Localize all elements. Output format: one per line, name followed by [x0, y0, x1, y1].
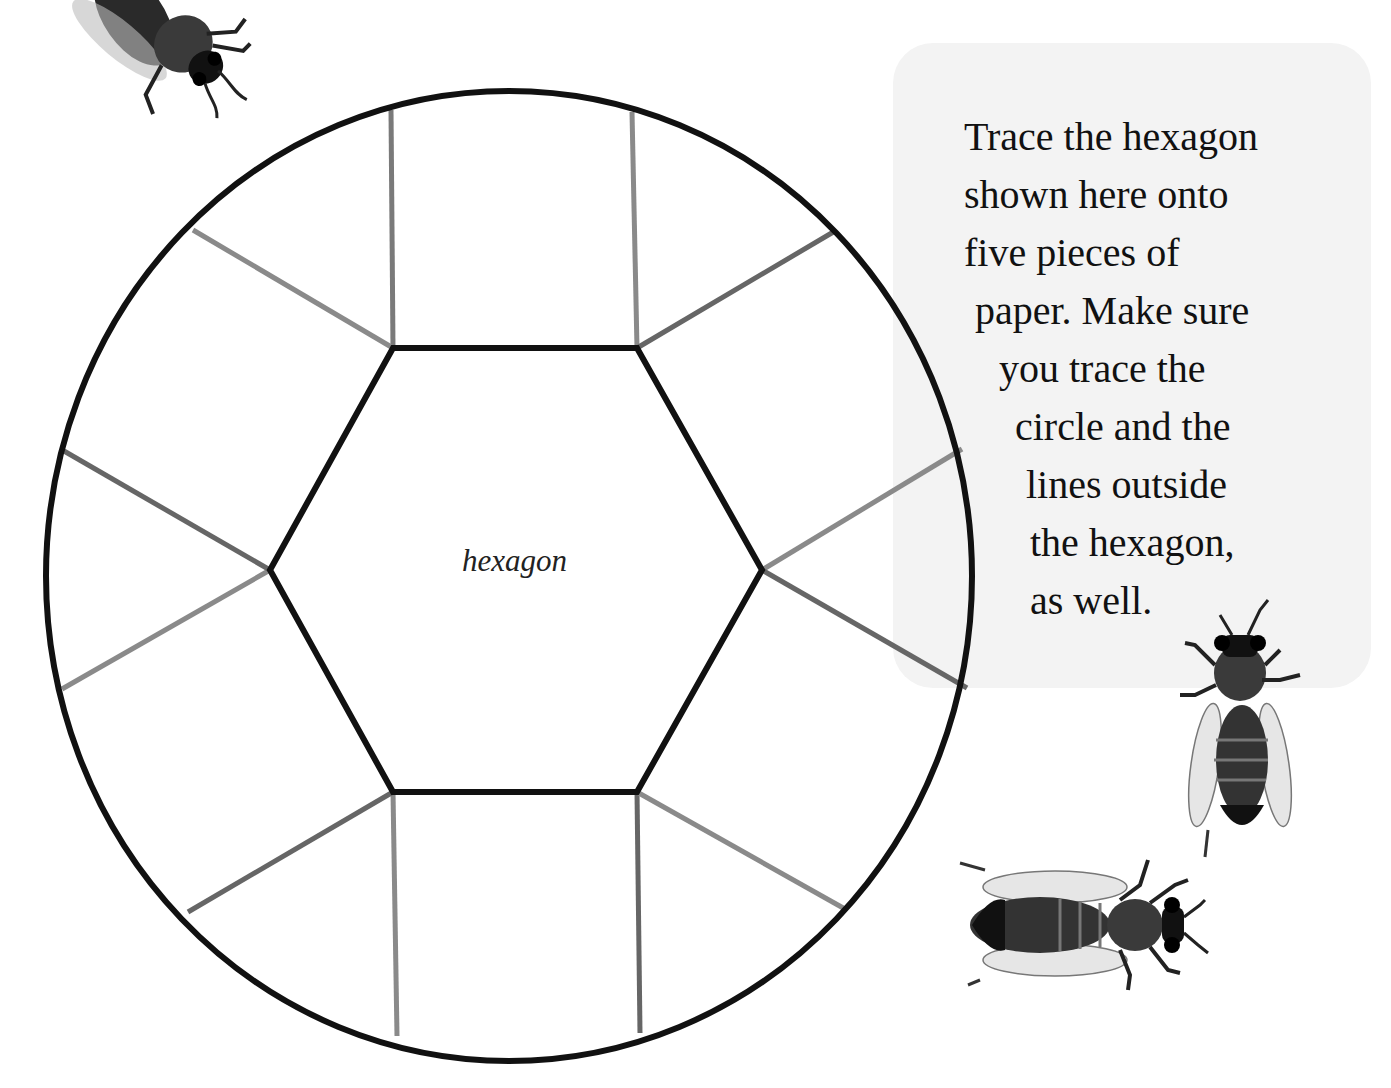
spoke	[637, 792, 845, 909]
instruction-line: lines outside	[1026, 465, 1227, 505]
spoke	[64, 451, 270, 570]
spoke	[632, 112, 637, 348]
bee-icon	[960, 860, 1208, 990]
spoke	[193, 230, 393, 348]
instruction-line: Trace the hexagon	[964, 117, 1258, 157]
instruction-line: you trace the	[999, 349, 1206, 389]
spoke	[188, 792, 393, 912]
instruction-line: paper. Make sure	[975, 291, 1249, 331]
spoke	[391, 110, 393, 348]
bee-icon	[1180, 600, 1300, 857]
spoke	[62, 570, 270, 689]
instruction-line: circle and the	[1015, 407, 1230, 447]
bee-icon	[55, 0, 283, 159]
spoke	[762, 449, 962, 570]
spoke	[393, 792, 397, 1036]
hexagon-label: hexagon	[462, 545, 567, 576]
instruction-line: the hexagon,	[1030, 523, 1234, 563]
spoke	[637, 792, 640, 1033]
spoke	[637, 231, 835, 348]
instruction-line: as well.	[1030, 581, 1152, 621]
instruction-line: shown here onto	[964, 175, 1228, 215]
spoke	[762, 570, 967, 688]
instruction-line: five pieces of	[964, 233, 1179, 273]
